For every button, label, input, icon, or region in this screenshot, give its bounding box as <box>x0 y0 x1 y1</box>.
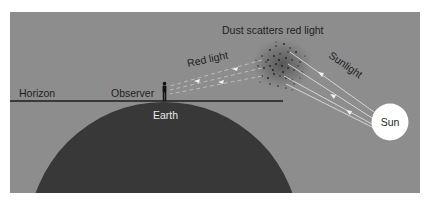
dust-label: Dust scatters red light <box>222 24 324 36</box>
horizon-label: Horizon <box>19 87 55 99</box>
sunset-scattering-diagram: Dust scatters red light Red light Sunlig… <box>0 0 426 201</box>
observer-label: Observer <box>111 87 155 99</box>
sun-label: Sun <box>381 116 400 128</box>
earth-label: Earth <box>153 109 178 121</box>
